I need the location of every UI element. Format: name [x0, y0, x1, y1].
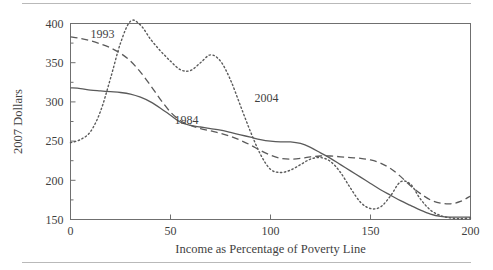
series-inline-labels: 198419932004	[91, 27, 279, 126]
x-tick-label: 50	[165, 224, 177, 238]
series-curves	[71, 20, 471, 219]
line-chart: 150200250300350400 050100150200 19841993…	[0, 0, 493, 270]
y-tick-label: 200	[46, 174, 64, 188]
series-label-2004: 2004	[255, 91, 279, 105]
x-axis-tickmarks	[71, 215, 471, 220]
y-tick-label: 150	[46, 213, 64, 227]
series-line-1984	[71, 88, 471, 217]
y-tick-label: 350	[46, 56, 64, 70]
x-tick-label: 100	[262, 224, 280, 238]
x-tick-label: 0	[68, 224, 74, 238]
y-tick-label: 300	[46, 95, 64, 109]
series-label-1993: 1993	[91, 27, 115, 41]
series-label-1984: 1984	[175, 113, 199, 127]
y-axis-tick-labels: 150200250300350400	[46, 17, 64, 227]
x-axis-title: Income as Percentage of Poverty Line	[175, 242, 366, 256]
y-tick-label: 400	[46, 17, 64, 31]
series-line-2004	[71, 20, 471, 219]
plot-frame	[71, 24, 471, 220]
x-axis-tick-labels: 050100150200	[68, 224, 480, 238]
chart-figure: 150200250300350400 050100150200 19841993…	[0, 0, 493, 270]
y-axis-title: 2007 Dollars	[11, 89, 25, 154]
x-tick-label: 200	[462, 224, 480, 238]
x-tick-label: 150	[362, 224, 380, 238]
series-line-1993	[71, 37, 471, 204]
y-tick-label: 250	[46, 134, 64, 148]
